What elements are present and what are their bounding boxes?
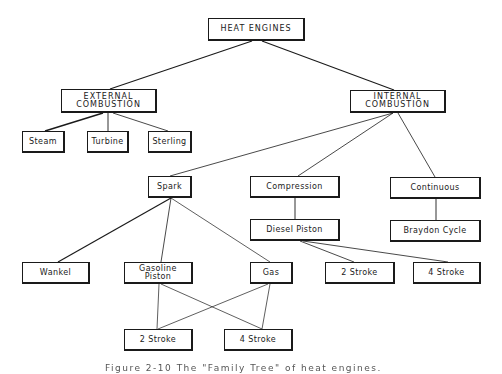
node-compression: Compression xyxy=(250,176,340,198)
node-label: Gasoline Piston xyxy=(139,265,177,281)
node-label: 2 Stroke xyxy=(140,336,176,344)
node-label: Braydon Cycle xyxy=(403,227,466,235)
node-label: HEAT ENGINES xyxy=(220,25,291,33)
node-gas: Gas xyxy=(250,262,293,284)
node-spark: Spark xyxy=(148,176,192,198)
node-label: Turbine xyxy=(91,138,123,146)
node-diesel-piston: Diesel Piston xyxy=(250,219,340,241)
node-label: 4 Stroke xyxy=(428,269,464,277)
node-external-combustion: EXTERNAL COMBUSTION xyxy=(61,89,157,113)
node-label: Steam xyxy=(29,138,57,146)
node-label: Compression xyxy=(266,183,322,191)
node-sterling: Sterling xyxy=(148,131,192,153)
node-continuous: Continuous xyxy=(390,177,481,199)
figure-caption: Figure 2-10 The "Family Tree" of heat en… xyxy=(105,363,382,373)
node-spark-4-stroke: 4 Stroke xyxy=(224,329,293,351)
node-label: Sterling xyxy=(152,138,186,146)
node-braydon-cycle: Braydon Cycle xyxy=(390,220,481,242)
node-spark-2-stroke: 2 Stroke xyxy=(124,329,193,351)
node-internal-combustion: INTERNAL COMBUSTION xyxy=(350,90,446,113)
node-label: Spark xyxy=(157,183,182,191)
node-label: Continuous xyxy=(410,184,459,192)
node-label: Gas xyxy=(263,269,279,277)
node-label: 2 Stroke xyxy=(341,269,377,277)
node-label: Wankel xyxy=(40,269,71,277)
node-heat-engines: HEAT ENGINES xyxy=(208,18,305,41)
node-label: INTERNAL COMBUSTION xyxy=(365,93,430,109)
node-label: Diesel Piston xyxy=(266,226,323,234)
node-turbine: Turbine xyxy=(87,131,129,153)
node-diesel-2-stroke: 2 Stroke xyxy=(325,262,395,284)
node-gasoline-piston: Gasoline Piston xyxy=(124,262,193,284)
node-diesel-4-stroke: 4 Stroke xyxy=(413,262,481,284)
node-label: EXTERNAL COMBUSTION xyxy=(76,93,141,109)
node-steam: Steam xyxy=(22,131,65,153)
node-label: 4 Stroke xyxy=(240,336,276,344)
node-wankel: Wankel xyxy=(22,262,90,284)
